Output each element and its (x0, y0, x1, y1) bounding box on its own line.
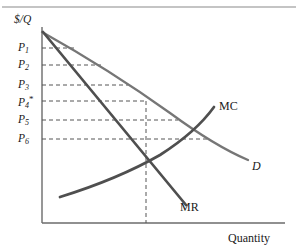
curve-label-mc: MC (219, 100, 238, 112)
economics-diagram-figure: $/Q P1 P2 P3 P4* P5 P6 MC D MR Quantity (0, 0, 298, 252)
price-label-p2-base: P (18, 58, 25, 70)
diagram-canvas (0, 0, 298, 252)
price-label-p4-star: * (29, 94, 34, 104)
curve-label-mr: MR (180, 201, 199, 213)
price-label-p5-sub: 5 (25, 118, 29, 127)
price-label-p6-sub: 6 (25, 137, 29, 146)
demand-curve (42, 32, 248, 160)
x-axis-label: Quantity (228, 232, 270, 244)
price-label-p6: P6 (18, 133, 29, 146)
price-label-p5-base: P (18, 113, 25, 125)
price-label-p2: P2 (18, 59, 29, 72)
price-label-p1-base: P (18, 41, 25, 53)
y-axis-label: $/Q (14, 14, 31, 26)
price-label-p5: P5 (18, 114, 29, 127)
marginal-revenue-curve (43, 32, 186, 205)
price-label-p4: P4* (18, 95, 34, 110)
price-label-p1-sub: 1 (25, 46, 29, 55)
curve-label-d: D (252, 160, 261, 172)
price-label-p3: P3 (18, 79, 29, 92)
price-label-p6-base: P (18, 132, 25, 144)
price-label-p2-sub: 2 (25, 63, 29, 72)
price-label-p3-sub: 3 (25, 83, 29, 92)
price-label-p1: P1 (18, 42, 29, 55)
price-label-p4-base: P (18, 96, 25, 108)
price-label-p3-base: P (18, 78, 25, 90)
